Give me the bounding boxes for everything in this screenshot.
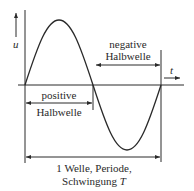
negative-halfwave-label-1: negative <box>109 38 146 50</box>
period-symbol: T <box>120 175 127 187</box>
y-axis-label: u <box>13 38 19 50</box>
sine-wave-diagram: u t negative Halbwelle positive Halbwell… <box>0 0 194 191</box>
period-label-2: Schwingung T <box>62 175 127 187</box>
period-label-2-text: Schwingung <box>62 175 120 187</box>
negative-halfwave-label-2: Halbwelle <box>105 50 150 62</box>
x-axis-label: t <box>170 64 174 76</box>
period-label-1: 1 Welle, Periode, <box>56 162 132 174</box>
positive-halfwave-label-2: Halbwelle <box>36 106 81 118</box>
positive-halfwave-label-1: positive <box>42 89 77 101</box>
